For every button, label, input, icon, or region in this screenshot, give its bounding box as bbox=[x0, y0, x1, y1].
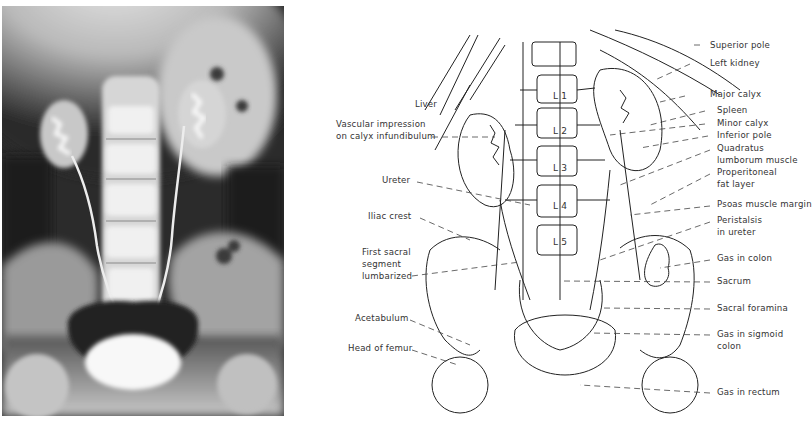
label-head-of-femur: Head of femur bbox=[348, 342, 412, 354]
label-iliac-crest: Iliac crest bbox=[368, 210, 411, 222]
label-vascular-impression-2: on calyx infundibulum bbox=[336, 130, 436, 142]
label-first-sacral-1: First sacral bbox=[362, 246, 411, 258]
label-spleen: Spleen bbox=[717, 104, 748, 116]
label-gas-sigmoid-2: colon bbox=[717, 340, 741, 352]
label-vascular-impression-1: Vascular impression bbox=[336, 118, 426, 130]
vertebra-label-l4: L 4 bbox=[553, 200, 567, 212]
label-superior-pole: Superior pole bbox=[710, 39, 770, 51]
label-liver: Liver bbox=[415, 98, 437, 110]
xray-illustration bbox=[2, 6, 284, 416]
label-psoas: Psoas muscle margin bbox=[717, 198, 812, 210]
label-ureter: Ureter bbox=[382, 174, 410, 186]
label-peristalsis-2: in ureter bbox=[717, 226, 756, 238]
vertebra-label-l2: L 2 bbox=[553, 125, 567, 137]
label-peristalsis-1: Peristalsis bbox=[717, 214, 762, 226]
label-acetabulum: Acetabulum bbox=[355, 312, 408, 324]
label-gas-colon: Gas in colon bbox=[717, 252, 772, 264]
xray-image bbox=[2, 6, 284, 416]
label-quadratus-2: lumborum muscle bbox=[717, 154, 798, 166]
label-left-kidney: Left kidney bbox=[710, 57, 760, 69]
label-gas-rectum: Gas in rectum bbox=[717, 386, 780, 398]
label-major-calyx: Major calyx bbox=[710, 88, 761, 100]
label-sacrum: Sacrum bbox=[717, 275, 751, 287]
label-inferior-pole: Inferior pole bbox=[717, 129, 772, 141]
label-properitoneal-2: fat layer bbox=[717, 178, 755, 190]
vertebra-label-l1: L 1 bbox=[553, 90, 567, 102]
label-gas-sigmoid-1: Gas in sigmoid bbox=[717, 328, 783, 340]
label-sacral-foramina: Sacral foramina bbox=[717, 302, 788, 314]
label-minor-calyx: Minor calyx bbox=[717, 117, 769, 129]
label-quadratus-1: Quadratus bbox=[717, 142, 764, 154]
vertebra-label-l5: L 5 bbox=[553, 236, 567, 248]
vertebra-label-l3: L 3 bbox=[553, 162, 567, 174]
label-first-sacral-2: segment bbox=[362, 258, 401, 270]
anatomy-line-diagram: L 1 L 2 L 3 L 4 L 5 Liver Vascular impre… bbox=[300, 0, 806, 424]
label-first-sacral-3: lumbarized bbox=[362, 270, 412, 282]
label-properitoneal-1: Properitoneal bbox=[717, 166, 777, 178]
